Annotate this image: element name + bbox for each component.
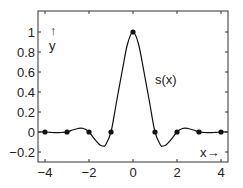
y-tick-label: 0.8 bbox=[17, 45, 35, 60]
x-tick-label: 4 bbox=[217, 165, 224, 180]
sample-point bbox=[152, 129, 157, 134]
x-axis-label: x→ bbox=[200, 145, 220, 160]
y-tick-label: 0.4 bbox=[17, 85, 35, 100]
x-tick-label: 0 bbox=[129, 165, 136, 180]
sample-point bbox=[64, 129, 69, 134]
sample-point bbox=[196, 129, 201, 134]
y-tick-label: 0.2 bbox=[17, 105, 35, 120]
axis-ticks: −4−2024−0.200.20.40.60.81 bbox=[9, 11, 228, 180]
sample-point bbox=[108, 129, 113, 134]
y-tick-label: 0.6 bbox=[17, 65, 35, 80]
sample-point bbox=[174, 129, 179, 134]
y-tick-label: 1 bbox=[28, 25, 35, 40]
x-tick-label: −4 bbox=[38, 165, 53, 180]
sx-curve bbox=[38, 32, 227, 146]
x-tick-label: −2 bbox=[82, 165, 97, 180]
y-axis-label: y bbox=[49, 38, 56, 53]
sample-markers bbox=[42, 29, 223, 134]
y-tick-label: 0 bbox=[28, 125, 35, 140]
curve-label: s(x) bbox=[155, 72, 177, 87]
sample-point bbox=[42, 129, 47, 134]
x-tick-label: 2 bbox=[173, 165, 180, 180]
sample-point bbox=[130, 29, 135, 34]
chart: −4−2024−0.200.20.40.60.81 ↑ y s(x) x→ bbox=[0, 0, 243, 188]
sample-point bbox=[86, 129, 91, 134]
y-tick-label: −0.2 bbox=[9, 145, 35, 160]
sample-point bbox=[218, 129, 223, 134]
y-arrow-label: ↑ bbox=[50, 23, 57, 38]
